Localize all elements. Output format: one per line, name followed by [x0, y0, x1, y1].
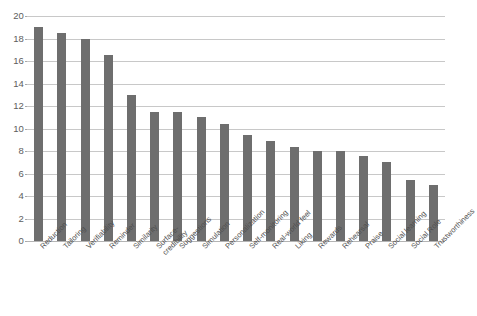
y-tick-label: 18 [0, 34, 24, 44]
y-tick-label: 8 [0, 146, 24, 156]
y-tick-label: 12 [0, 101, 24, 111]
x-axis: ReductionTailoringVerifiabilityReminderS… [27, 241, 445, 316]
plot-area [27, 16, 445, 241]
bar [382, 162, 391, 241]
bar [57, 33, 66, 241]
gridline [27, 61, 445, 62]
bar [81, 39, 90, 242]
gridline [27, 129, 445, 130]
y-tick-label: 2 [0, 214, 24, 224]
gridline [27, 106, 445, 107]
gridline [27, 16, 445, 17]
bar [127, 95, 136, 241]
bar [34, 27, 43, 241]
y-tick-label: 20 [0, 11, 24, 21]
gridline [27, 39, 445, 40]
y-tick-label: 6 [0, 169, 24, 179]
bar [104, 55, 113, 241]
y-tick-label: 14 [0, 79, 24, 89]
y-tick-label: 0 [0, 236, 24, 246]
bar [313, 151, 322, 241]
y-tick-label: 10 [0, 124, 24, 134]
y-axis: 02468101214161820 [0, 16, 24, 241]
bar [150, 112, 159, 241]
y-tick-label: 16 [0, 56, 24, 66]
gridline [27, 84, 445, 85]
y-tick-label: 4 [0, 191, 24, 201]
gridline [27, 151, 445, 152]
